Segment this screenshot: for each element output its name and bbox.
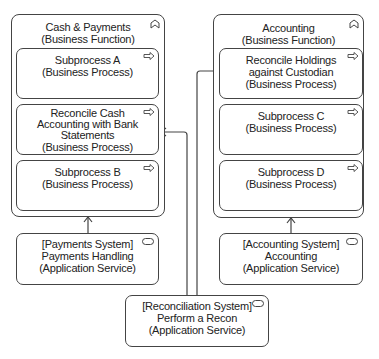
function-type: (Business Function) bbox=[214, 34, 363, 46]
process-reconcile-holdings[interactable]: Reconcile Holdings against Custodian (Bu… bbox=[219, 48, 363, 99]
service-system: [Reconciliation System] bbox=[126, 300, 268, 312]
process-subprocess-a[interactable]: Subprocess A (Business Process) bbox=[16, 48, 159, 99]
business-process-arrow-icon bbox=[347, 52, 359, 60]
application-service-icon bbox=[346, 238, 358, 245]
process-type: (Business Process) bbox=[220, 78, 362, 90]
service-name: Payments Handling bbox=[17, 250, 158, 262]
business-process-arrow-icon bbox=[347, 108, 359, 116]
process-reconcile-cash[interactable]: Reconcile Cash Accounting with Bank Stat… bbox=[16, 104, 159, 155]
function-type: (Business Function) bbox=[12, 33, 164, 45]
service-type: (Application Service) bbox=[17, 262, 158, 274]
process-type: (Business Process) bbox=[220, 122, 362, 134]
business-process-arrow-icon bbox=[143, 108, 155, 116]
business-process-arrow-icon bbox=[347, 164, 359, 172]
service-name: Accounting bbox=[220, 250, 362, 262]
service-name: Perform a Recon bbox=[126, 312, 268, 324]
function-title: Cash & Payments bbox=[12, 21, 164, 33]
process-name: Subprocess A bbox=[17, 54, 158, 66]
function-title: Accounting bbox=[214, 22, 363, 34]
application-service-icon bbox=[252, 300, 264, 307]
process-name-line3: Statements bbox=[17, 129, 158, 141]
process-name: Subprocess C bbox=[220, 110, 362, 122]
service-perform-recon[interactable]: [Reconciliation System] Perform a Recon … bbox=[125, 295, 269, 347]
process-name: Subprocess B bbox=[17, 166, 158, 178]
process-subprocess-b[interactable]: Subprocess B (Business Process) bbox=[16, 160, 159, 211]
process-name-line1: Reconcile Holdings bbox=[220, 54, 362, 66]
business-function-icon bbox=[349, 19, 359, 29]
process-subprocess-d[interactable]: Subprocess D (Business Process) bbox=[219, 160, 363, 211]
process-type: (Business Process) bbox=[220, 178, 362, 190]
process-type: (Business Process) bbox=[17, 178, 158, 190]
process-type: (Business Process) bbox=[17, 66, 158, 78]
service-accounting[interactable]: [Accounting System] Accounting (Applicat… bbox=[219, 233, 363, 285]
service-type: (Application Service) bbox=[220, 262, 362, 274]
process-subprocess-c[interactable]: Subprocess C (Business Process) bbox=[219, 104, 363, 155]
application-service-icon bbox=[142, 238, 154, 245]
process-name: Subprocess D bbox=[220, 166, 362, 178]
business-process-arrow-icon bbox=[143, 164, 155, 172]
service-payments-handling[interactable]: [Payments System] Payments Handling (App… bbox=[16, 233, 159, 285]
business-process-arrow-icon bbox=[143, 52, 155, 60]
business-function-icon bbox=[150, 19, 160, 29]
process-type: (Business Process) bbox=[17, 141, 158, 153]
service-system: [Payments System] bbox=[17, 238, 158, 250]
service-type: (Application Service) bbox=[126, 324, 268, 336]
service-system: [Accounting System] bbox=[220, 238, 362, 250]
process-name-line2: against Custodian bbox=[220, 66, 362, 78]
